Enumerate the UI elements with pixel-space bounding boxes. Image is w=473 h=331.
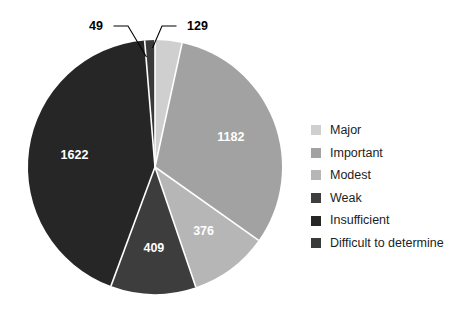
legend-item-modest[interactable]: Modest <box>311 164 469 187</box>
legend-label-modest: Modest <box>330 169 371 182</box>
slice-value-label-weak: 409 <box>143 241 164 255</box>
legend-swatch-insufficient <box>311 216 321 226</box>
legend-item-insufficient[interactable]: Insufficient <box>311 209 469 232</box>
legend-swatch-modest <box>311 170 321 180</box>
legend-label-weak: Weak <box>330 192 362 205</box>
callout-label-49: 49 <box>89 19 103 33</box>
legend-item-weak[interactable]: Weak <box>311 187 469 210</box>
slice-value-label-modest: 376 <box>193 224 214 238</box>
pie-callout-labels-group: 49 129 <box>89 19 208 33</box>
legend-swatch-important <box>311 148 321 158</box>
slice-value-label-insufficient: 1622 <box>61 148 89 162</box>
legend-item-difficult-to-determine[interactable]: Difficult to determine <box>311 232 469 255</box>
legend-label-difficult-to-determine: Difficult to determine <box>330 237 444 250</box>
legend-label-insufficient: Insufficient <box>330 214 390 227</box>
legend-label-important: Important <box>330 147 383 160</box>
legend-item-important[interactable]: Important <box>311 142 469 165</box>
callout-label-129: 129 <box>187 19 208 33</box>
legend-item-major[interactable]: Major <box>311 119 469 142</box>
legend-swatch-weak <box>311 193 321 203</box>
slice-value-label-important: 1182 <box>217 130 244 144</box>
legend-label-major: Major <box>330 124 361 137</box>
pie-chart-figure: 11823764091622 49 129 Major Important Mo… <box>0 0 473 331</box>
legend-swatch-difficult-to-determine <box>311 238 321 248</box>
legend-swatch-major <box>311 125 321 135</box>
chart-legend: Major Important Modest Weak Insufficient… <box>311 119 469 255</box>
